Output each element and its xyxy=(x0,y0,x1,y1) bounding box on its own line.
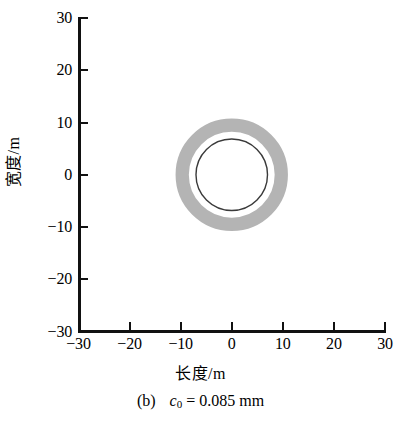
x-axis-title: 长度/m xyxy=(0,360,401,384)
y-axis-tick xyxy=(80,278,88,280)
x-axis-tick xyxy=(282,322,284,330)
y-axis-tick-label-wrap: 0 xyxy=(26,167,72,183)
x-axis-tick xyxy=(384,322,386,330)
caption-rest: = 0.085 mm xyxy=(186,392,264,409)
y-axis-tick xyxy=(80,226,88,228)
x-axis-tick-label: −10 xyxy=(154,336,208,352)
y-axis-tick-label-wrap: −20 xyxy=(26,271,72,287)
y-axis-tick-label-wrap: 20 xyxy=(26,62,72,78)
contour-circle xyxy=(196,139,268,211)
y-axis-tick-label-wrap: −10 xyxy=(26,219,72,235)
x-axis-tick xyxy=(129,322,131,330)
caption-subscript: 0 xyxy=(177,398,183,410)
y-axis-tick xyxy=(80,17,88,19)
x-axis-tick-label: 30 xyxy=(358,336,401,352)
figure-panel: −30−20−100102030−30−20−100102030 长度/m 宽度… xyxy=(0,0,401,423)
y-axis-tick-label: 20 xyxy=(32,62,72,78)
y-axis-tick-label-wrap: 30 xyxy=(26,10,72,26)
y-axis-tick-label: 0 xyxy=(32,167,72,183)
figure-caption: (b)c0 = 0.085 mm xyxy=(0,392,401,410)
y-axis-tick-label: 30 xyxy=(32,10,72,26)
y-axis-tick xyxy=(80,331,88,333)
x-axis-line xyxy=(78,330,386,333)
caption-label: (b) xyxy=(137,392,156,409)
x-axis-tick xyxy=(333,322,335,330)
y-axis-tick-label-wrap: 10 xyxy=(26,115,72,131)
y-axis-tick xyxy=(80,122,88,124)
caption-symbol: c xyxy=(170,392,177,409)
x-axis-tick-label: 10 xyxy=(256,336,310,352)
x-axis-tick xyxy=(180,322,182,330)
x-axis-tick xyxy=(231,322,233,330)
x-axis-tick-label: 20 xyxy=(307,336,361,352)
y-axis-tick-label: 10 xyxy=(32,115,72,131)
y-axis-tick-label: −10 xyxy=(32,219,72,235)
x-axis-tick-label: −30 xyxy=(52,336,106,352)
contamination-band-annulus xyxy=(182,125,281,224)
y-axis-title: 宽度/m xyxy=(0,122,24,202)
y-axis-tick xyxy=(80,69,88,71)
x-axis-tick-label: −20 xyxy=(103,336,157,352)
y-axis-tick xyxy=(80,174,88,176)
x-axis-tick-label: 0 xyxy=(205,336,259,352)
y-axis-tick-label: −20 xyxy=(32,271,72,287)
